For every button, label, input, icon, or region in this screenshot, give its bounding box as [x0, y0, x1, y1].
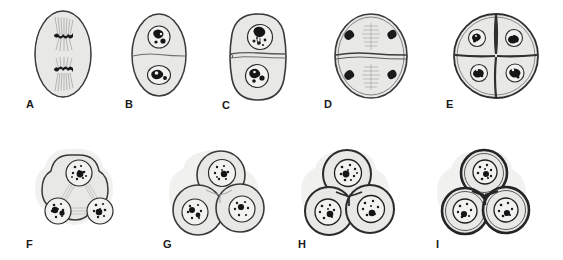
nucleus-e-2: [506, 30, 523, 47]
panel-b-drawing: [128, 12, 190, 100]
nucleus-h-top: [335, 160, 362, 187]
panel-h-drawing: [300, 148, 398, 240]
panel-i-drawing: [436, 148, 534, 240]
panel-a-drawing: [30, 8, 96, 100]
panel-g-drawing: [166, 148, 266, 240]
nucleus-i-left: [453, 199, 477, 223]
nucleus-b-upper: [148, 26, 170, 48]
panel-label-d: D: [324, 99, 332, 110]
panel-label-c: C: [222, 100, 230, 111]
panel-label-a: A: [26, 99, 34, 110]
panel-label-g: G: [163, 239, 172, 250]
panel-c-drawing: [224, 12, 292, 102]
panel-a: A: [30, 8, 96, 100]
panel-label-b: B: [125, 99, 133, 110]
panel-f: F: [28, 146, 130, 240]
nucleus-g-left: [182, 199, 208, 225]
panel-d-drawing: [332, 12, 410, 100]
nucleus-b-lower: [148, 66, 171, 85]
panel-c: C: [224, 12, 292, 102]
nucleus-f-top: [66, 160, 92, 186]
nucleus-g-top: [209, 160, 236, 187]
panel-label-e: E: [446, 99, 454, 110]
figure-plate: A B: [0, 0, 563, 260]
panel-h: H: [300, 148, 398, 240]
panel-g: G: [166, 148, 266, 240]
nucleus-i-top: [473, 160, 497, 184]
panel-label-h: H: [298, 239, 306, 250]
nucleus-h-left: [315, 199, 341, 225]
nucleus-i-right: [494, 198, 518, 222]
panel-f-drawing: [28, 146, 130, 240]
panel-e: E: [452, 10, 540, 102]
nucleus-f-left: [45, 198, 71, 224]
nucleus-c-lower: [246, 65, 269, 88]
panel-i: I: [436, 148, 534, 240]
panel-e-drawing: [452, 10, 540, 102]
nucleus-f-right: [87, 198, 113, 224]
panel-d: D: [332, 12, 410, 100]
nucleus-c-upper: [248, 25, 273, 50]
panel-label-i: I: [436, 239, 439, 250]
nucleus-e-3: [471, 65, 488, 82]
panel-label-f: F: [26, 239, 33, 250]
nucleus-e-4: [506, 64, 524, 82]
nucleus-h-right: [358, 196, 385, 223]
nucleus-g-right: [229, 196, 255, 222]
nucleus-e-1: [469, 30, 486, 47]
panel-b: B: [128, 12, 190, 100]
